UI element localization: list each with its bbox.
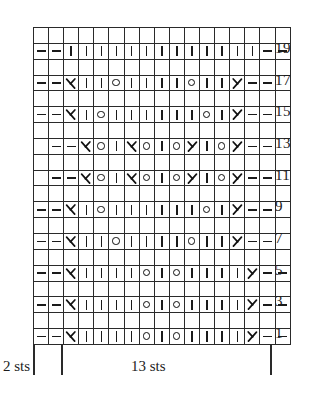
chart-cell[interactable] [154, 59, 169, 75]
chart-cell[interactable] [184, 123, 199, 139]
chart-cell[interactable] [169, 170, 184, 186]
chart-cell[interactable] [184, 170, 199, 186]
chart-cell[interactable] [139, 123, 154, 139]
chart-cell[interactable] [64, 329, 79, 345]
chart-cell[interactable] [109, 281, 124, 297]
chart-cell[interactable] [154, 28, 169, 44]
chart-cell[interactable] [154, 91, 169, 107]
chart-cell[interactable] [215, 154, 230, 170]
chart-cell[interactable] [215, 281, 230, 297]
chart-cell[interactable] [260, 218, 275, 234]
chart-cell[interactable] [139, 91, 154, 107]
chart-cell[interactable] [169, 297, 184, 313]
chart-cell[interactable] [109, 75, 124, 91]
chart-cell[interactable] [64, 107, 79, 123]
chart-cell[interactable] [215, 75, 230, 91]
chart-cell[interactable] [79, 329, 94, 345]
chart-cell[interactable] [139, 202, 154, 218]
chart-cell[interactable] [169, 43, 184, 59]
chart-cell[interactable] [260, 281, 275, 297]
chart-cell[interactable] [94, 265, 109, 281]
chart-cell[interactable] [49, 202, 64, 218]
chart-cell[interactable] [79, 186, 94, 202]
chart-cell[interactable] [154, 329, 169, 345]
chart-cell[interactable] [245, 281, 260, 297]
chart-cell[interactable] [64, 202, 79, 218]
chart-cell[interactable] [109, 265, 124, 281]
chart-cell[interactable] [184, 75, 199, 91]
chart-cell[interactable] [64, 138, 79, 154]
chart-cell[interactable] [34, 265, 49, 281]
chart-cell[interactable] [245, 186, 260, 202]
chart-cell[interactable] [200, 329, 215, 345]
chart-cell[interactable] [200, 297, 215, 313]
chart-cell[interactable] [230, 91, 245, 107]
chart-cell[interactable] [79, 28, 94, 44]
chart-cell[interactable] [260, 43, 275, 59]
chart-cell[interactable] [200, 28, 215, 44]
chart-cell[interactable] [139, 107, 154, 123]
chart-cell[interactable] [184, 91, 199, 107]
chart-cell[interactable] [139, 28, 154, 44]
chart-cell[interactable] [230, 329, 245, 345]
chart-cell[interactable] [200, 154, 215, 170]
chart-cell[interactable] [139, 281, 154, 297]
chart-cell[interactable] [94, 313, 109, 329]
chart-cell[interactable] [124, 170, 139, 186]
chart-cell[interactable] [79, 138, 94, 154]
chart-cell[interactable] [184, 329, 199, 345]
chart-cell[interactable] [124, 91, 139, 107]
chart-cell[interactable] [94, 297, 109, 313]
chart-cell[interactable] [184, 138, 199, 154]
chart-cell[interactable] [215, 107, 230, 123]
chart-cell[interactable] [124, 297, 139, 313]
chart-cell[interactable] [215, 138, 230, 154]
chart-cell[interactable] [154, 75, 169, 91]
chart-cell[interactable] [79, 297, 94, 313]
chart-cell[interactable] [215, 233, 230, 249]
chart-cell[interactable] [124, 233, 139, 249]
chart-cell[interactable] [169, 265, 184, 281]
chart-cell[interactable] [184, 107, 199, 123]
chart-cell[interactable] [94, 123, 109, 139]
chart-cell[interactable] [79, 265, 94, 281]
chart-cell[interactable] [79, 218, 94, 234]
chart-cell[interactable] [230, 123, 245, 139]
chart-cell[interactable] [230, 281, 245, 297]
chart-cell[interactable] [124, 329, 139, 345]
chart-cell[interactable] [64, 233, 79, 249]
chart-cell[interactable] [139, 265, 154, 281]
chart-cell[interactable] [139, 186, 154, 202]
chart-cell[interactable] [94, 43, 109, 59]
chart-cell[interactable] [94, 186, 109, 202]
chart-cell[interactable] [94, 154, 109, 170]
chart-cell[interactable] [200, 265, 215, 281]
chart-cell[interactable] [169, 123, 184, 139]
chart-cell[interactable] [139, 218, 154, 234]
chart-cell[interactable] [260, 313, 275, 329]
chart-cell[interactable] [124, 281, 139, 297]
chart-cell[interactable] [124, 107, 139, 123]
chart-cell[interactable] [260, 249, 275, 265]
chart-cell[interactable] [184, 186, 199, 202]
chart-cell[interactable] [184, 154, 199, 170]
chart-cell[interactable] [260, 186, 275, 202]
chart-cell[interactable] [230, 28, 245, 44]
chart-cell[interactable] [49, 218, 64, 234]
chart-cell[interactable] [49, 329, 64, 345]
chart-cell[interactable] [260, 75, 275, 91]
chart-cell[interactable] [49, 138, 64, 154]
chart-cell[interactable] [215, 297, 230, 313]
chart-cell[interactable] [154, 107, 169, 123]
chart-cell[interactable] [64, 28, 79, 44]
chart-cell[interactable] [94, 75, 109, 91]
chart-cell[interactable] [109, 313, 124, 329]
chart-cell[interactable] [215, 218, 230, 234]
chart-cell[interactable] [64, 218, 79, 234]
chart-cell[interactable] [79, 154, 94, 170]
chart-cell[interactable] [109, 107, 124, 123]
chart-cell[interactable] [124, 186, 139, 202]
chart-cell[interactable] [169, 75, 184, 91]
chart-cell[interactable] [245, 265, 260, 281]
chart-cell[interactable] [139, 154, 154, 170]
